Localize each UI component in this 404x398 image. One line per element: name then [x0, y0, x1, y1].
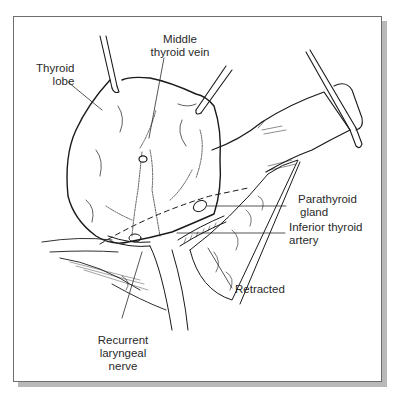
label-line: Retracted [235, 283, 285, 296]
retractor-right-icon [306, 50, 362, 148]
label-line: lobe [36, 75, 74, 88]
label-parathyroid-gland: Parathyroid gland [298, 193, 357, 219]
label-line: Inferior thyroid [289, 221, 363, 234]
label-line: thyroid vein [140, 46, 220, 59]
label-line: artery [289, 234, 363, 247]
label-thyroid-lobe: Thyroid lobe [36, 62, 74, 88]
parathyroid-gland-icon [191, 198, 208, 214]
label-line: nerve [88, 360, 158, 373]
label-line: Middle [140, 33, 220, 46]
label-line: gland [298, 206, 357, 219]
retractor-left-icon [100, 36, 119, 93]
strap-muscles-icon [42, 238, 166, 310]
label-line: Recurrent [88, 334, 158, 347]
label-middle-thyroid-vein: Middle thyroid vein [140, 33, 220, 59]
trachea-icon [212, 92, 350, 172]
label-inferior-thyroid-artery: Inferior thyroid artery [289, 221, 363, 247]
middle-thyroid-vein-clip [139, 156, 147, 162]
label-recurrent-laryngeal-nerve: Recurrent laryngeal nerve [88, 334, 158, 373]
thyroid-veins-icon [106, 110, 202, 236]
leader-lines [68, 58, 286, 318]
recurrent-laryngeal-nerve-icon [150, 246, 188, 330]
label-line: laryngeal [88, 347, 158, 360]
label-line: Thyroid [36, 62, 74, 75]
label-line: Parathyroid [298, 193, 357, 206]
label-retracted: Retracted [235, 283, 285, 296]
